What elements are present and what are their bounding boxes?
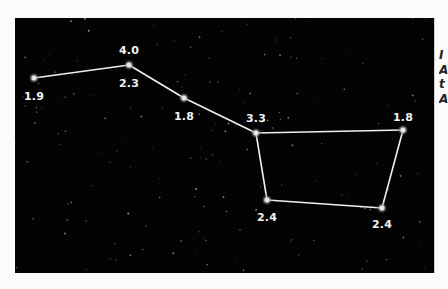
background-star [195,252,196,253]
background-star [236,125,237,126]
clipped-margin-text: I A t A [439,48,448,106]
background-star [412,18,413,19]
background-star [344,88,346,90]
background-star [341,194,342,195]
background-star [204,206,205,207]
background-star [400,175,402,177]
background-star [138,272,139,273]
background-star [239,88,240,89]
background-star [57,133,59,135]
background-star [44,59,45,60]
background-star [387,105,388,106]
margin-fragment: A [439,63,448,78]
background-star [116,150,117,151]
background-star [272,127,273,128]
background-star [424,268,425,269]
background-star [62,101,63,102]
background-star [181,90,182,91]
background-star [386,259,387,260]
background-star [110,258,111,259]
background-star [36,107,37,108]
background-star [243,270,245,272]
background-star [215,123,216,124]
background-star [49,54,50,55]
background-star [221,31,222,32]
background-star [84,18,86,20]
background-star [420,245,421,246]
constellation-line [256,130,403,133]
background-star [270,116,271,117]
background-star [159,178,160,179]
background-star [366,261,367,262]
background-star [130,107,131,108]
star-2 [127,63,131,67]
background-star [127,213,129,215]
background-star [205,158,207,160]
background-star [208,57,209,58]
background-star [130,254,132,256]
background-star [32,218,34,220]
background-star [260,186,261,187]
background-star [157,44,159,46]
background-star [194,196,196,198]
background-star [67,203,69,205]
background-star [403,237,405,239]
background-star [249,92,251,94]
background-star [419,221,421,223]
magnitude-label-star-7: 2.4 [372,219,392,231]
background-star [85,27,86,28]
background-star [34,122,36,124]
background-star [247,24,248,25]
constellation-line [382,130,403,208]
background-star [86,269,87,270]
background-star [98,152,99,153]
background-star [274,43,275,44]
background-star [361,268,363,270]
background-star [109,161,111,163]
star-6 [265,198,269,202]
background-star [378,123,379,124]
background-star [315,180,316,181]
background-star [370,209,371,210]
background-star [203,238,204,239]
background-star [140,116,142,118]
background-star [64,233,66,235]
background-star [228,123,230,125]
background-star [36,111,37,112]
background-star [174,40,175,41]
background-star [220,161,221,162]
background-star [244,102,245,103]
star-chart-panel: 1.9 4.0 2.3 1.8 3.3 1.8 2.4 2.4 [15,18,435,273]
background-star [290,56,292,58]
background-star [114,243,115,244]
background-star [276,39,277,40]
background-star [153,25,154,26]
background-star [322,58,323,59]
background-star [172,252,174,254]
background-star [295,18,296,19]
star-3 [182,96,186,100]
background-star [15,142,16,143]
background-star [198,231,199,232]
background-star [199,36,201,38]
background-star [26,161,28,163]
background-star [351,123,352,124]
background-star [92,185,93,186]
background-star [279,112,280,113]
background-star [184,74,185,75]
background-star [297,93,299,95]
background-star [287,117,289,119]
background-star [200,158,201,159]
background-star [65,130,67,132]
background-star [130,167,131,168]
background-star [224,130,226,132]
background-star [206,264,208,266]
background-star [289,20,290,21]
background-star [280,118,282,120]
background-star [70,202,72,204]
magnitude-label-star-2-top: 4.0 [119,45,139,57]
background-star [279,54,281,56]
background-star [145,226,146,227]
magnitude-label-star-6: 2.4 [257,212,277,224]
background-star [211,130,212,131]
